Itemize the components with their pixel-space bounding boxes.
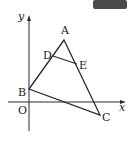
point-c-label: C (102, 111, 110, 124)
x-axis-label: x (119, 101, 126, 114)
point-a-label: A (60, 24, 70, 37)
coordinate-figure: y x O A B C D E (0, 0, 131, 144)
triangle-abc (29, 40, 100, 115)
point-d-label: D (43, 49, 52, 62)
point-e-label: E (79, 59, 87, 72)
corner-badge (93, 0, 127, 9)
y-axis-label: y (17, 10, 25, 23)
origin-label: O (18, 104, 27, 117)
y-axis-arrow-icon (27, 15, 31, 21)
point-b-label: B (18, 86, 26, 99)
